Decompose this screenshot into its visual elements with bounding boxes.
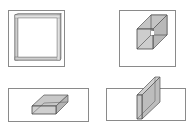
frame-right-side [57,15,60,60]
vslab-front-face [137,95,142,119]
slab-front-face [32,106,56,114]
shapes-figure [0,0,192,132]
cube-window [151,31,154,35]
frame-top-bevel [15,14,61,16]
panel-wireframe-cube [120,11,176,67]
cube-front-face [137,29,153,49]
frame-left-side [15,15,18,60]
frame-bottom-side [15,57,60,60]
frame-top-side [15,15,60,18]
frame-inner [18,18,57,57]
panel-vertical-slab [107,77,186,121]
panel-flat-slab [9,89,89,122]
panel-square-frame [9,11,65,67]
